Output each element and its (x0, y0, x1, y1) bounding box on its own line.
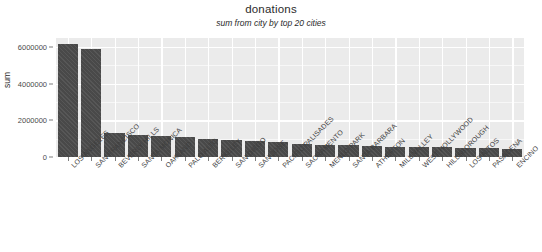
x-axis-tick-mark (255, 157, 256, 161)
y-axis-tick-mark (49, 120, 53, 121)
x-axis-tick-mark (442, 157, 443, 161)
bar (58, 44, 78, 158)
y-axis-tick-label: 2000000 (18, 116, 47, 125)
page-title: donations (0, 2, 542, 16)
chart-figure: donations sum from city by top 20 cities… (0, 0, 542, 252)
x-axis-tick-mark (115, 157, 116, 161)
y-axis-tick-layer: 0200000040000006000000 (0, 0, 56, 252)
x-axis-tick-mark (161, 157, 162, 161)
y-axis-tick-mark (49, 157, 53, 158)
x-axis-tick-mark (466, 157, 467, 161)
x-axis-tick-mark (349, 157, 350, 161)
chart-subtitle: sum from city by top 20 cities (0, 17, 542, 29)
x-axis-tick-layer: LOS ANGELESSAN FRANCISCOBEVERLY HILLSSAN… (56, 157, 524, 252)
x-axis-tick-mark (302, 157, 303, 161)
x-axis-tick-mark (489, 157, 490, 161)
x-axis-tick-mark (419, 157, 420, 161)
x-axis-tick-mark (395, 157, 396, 161)
y-axis-tick-mark (49, 47, 53, 48)
x-axis-tick-mark (372, 157, 373, 161)
y-axis-tick-label: 4000000 (18, 79, 47, 88)
x-axis-tick-mark (185, 157, 186, 161)
x-axis-tick-mark (208, 157, 209, 161)
x-axis-tick-mark (278, 157, 279, 161)
y-axis-tick-label: 0 (43, 153, 47, 162)
x-axis-tick-mark (325, 157, 326, 161)
x-axis-tick-mark (91, 157, 92, 161)
y-axis-tick-label: 6000000 (18, 43, 47, 52)
x-axis-tick-mark (232, 157, 233, 161)
y-axis-tick-mark (49, 83, 53, 84)
x-axis-tick-mark (68, 157, 69, 161)
x-axis-tick-mark (138, 157, 139, 161)
title-block: donations sum from city by top 20 cities (0, 2, 542, 29)
x-axis-tick-mark (512, 157, 513, 161)
